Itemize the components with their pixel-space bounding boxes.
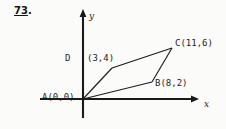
vertex-label-a: A(0,0) (42, 93, 75, 102)
edge-d-a (83, 68, 112, 99)
edge-a-b (83, 82, 152, 99)
vertex-label-b: B(8,2) (155, 79, 188, 88)
y-axis-label: y (89, 12, 94, 21)
x-axis-arrowhead (191, 96, 199, 103)
y-axis-arrowhead (80, 9, 87, 17)
vertex-label-d-coords: (3,4) (87, 54, 114, 63)
geometry-figure: 73. y x A(0,0) B(8,2) C(11,6) D (3,4) (0, 0, 226, 129)
edge-c-d (112, 48, 172, 68)
problem-number: 73. (14, 6, 32, 16)
problem-number-period: . (28, 5, 32, 16)
x-axis-label: x (204, 100, 209, 109)
vertex-label-d-letter: D (65, 54, 70, 63)
figure-canvas (0, 0, 226, 129)
vertex-label-c: C(11,6) (175, 39, 213, 48)
problem-number-value: 73 (14, 5, 28, 16)
